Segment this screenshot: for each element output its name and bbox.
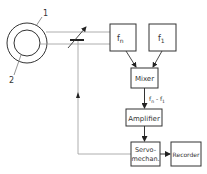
ring-resonator [7,23,47,63]
label-2-leader [14,55,21,75]
recorder-label: Recorder [173,151,200,158]
feedback-arrow-icon [76,92,80,98]
beam-splitter-icon [68,27,86,48]
signal-label: fn - f1 [149,95,165,104]
f1-to-mixer-arrow [153,51,162,67]
servo-label-line1: Servo- [135,146,157,154]
diagram-canvas: 1 2 fn f1 Mixer fn - f1 Amplifier Servo-… [0,0,207,174]
servo-label-line2: mechan. [131,155,159,163]
label-2: 2 [9,76,14,85]
fn-to-mixer-arrow [126,51,136,67]
label-1-leader [36,17,42,26]
label-1: 1 [43,9,48,18]
amplifier-label: Amplifier [128,115,160,123]
mixer-label: Mixer [135,75,154,83]
